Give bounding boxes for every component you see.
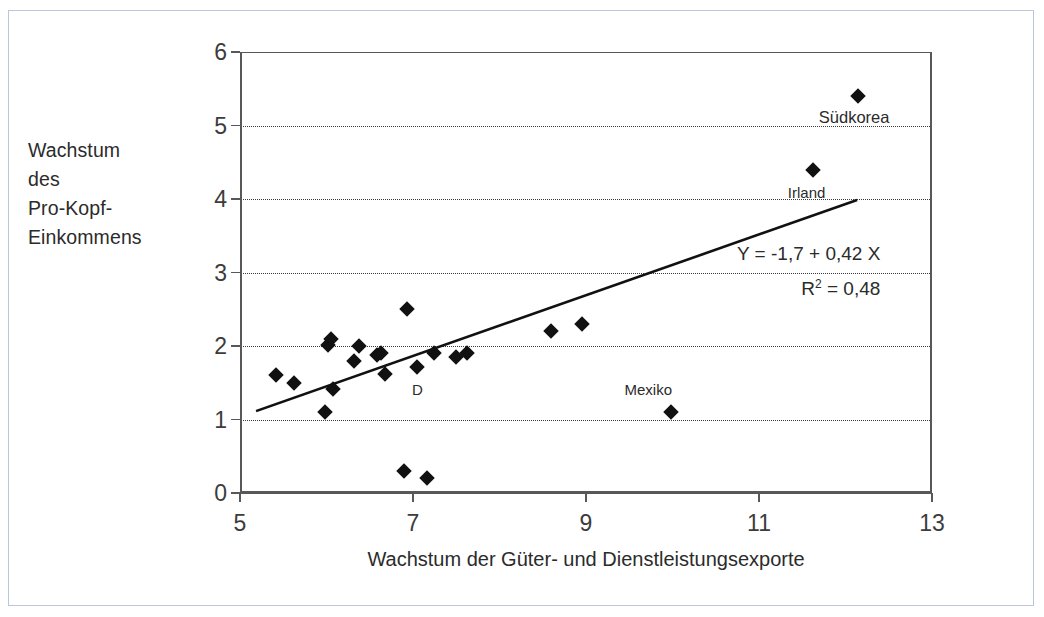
annotation-mexiko: Mexiko: [625, 380, 673, 397]
y-axis-title-line-4: Einkommens: [28, 223, 208, 252]
y-tick-label-0: 0: [214, 480, 227, 507]
y-tick-label-2: 2: [214, 333, 227, 360]
r-squared-value: = 0,48: [827, 278, 880, 299]
y-tick-label-5: 5: [214, 112, 227, 139]
y-tick-3: [231, 272, 240, 274]
x-tick-label-5: 5: [234, 510, 247, 537]
y-tick-label-6: 6: [214, 39, 227, 66]
y-tick-4: [231, 198, 240, 200]
r-squared-exponent: 2: [815, 277, 822, 291]
x-tick-5: [239, 493, 241, 502]
x-tick-label-7: 7: [407, 510, 420, 537]
y-axis-title-line-3: Pro-Kopf-: [28, 194, 208, 223]
x-tick-11: [758, 493, 760, 502]
x-tick-label-9: 9: [580, 510, 593, 537]
y-tick-label-4: 4: [214, 186, 227, 213]
r-squared-text: R2 = 0,48: [737, 269, 880, 304]
x-tick-7: [412, 493, 414, 502]
y-axis-title: Wachstum des Pro-Kopf- Einkommens: [28, 136, 208, 252]
y-axis-title-line-2: des: [28, 165, 208, 194]
annotation-südkorea: Südkorea: [819, 107, 890, 126]
y-tick-label-1: 1: [214, 406, 227, 433]
x-tick-9: [585, 493, 587, 502]
y-tick-5: [231, 125, 240, 127]
equation-text: Y = -1,7 + 0,42 X: [737, 238, 880, 269]
regression-equation: Y = -1,7 + 0,42 X R2 = 0,48: [737, 238, 880, 304]
y-tick-1: [231, 419, 240, 421]
y-tick-2: [231, 345, 240, 347]
annotation-d: D: [412, 380, 423, 397]
r-squared-symbol: R: [801, 278, 815, 299]
plot-area: 0123456 5791113 SüdkoreaIrlandMexikoD Y …: [240, 52, 932, 493]
x-axis-title: Wachstum der Güter- und Dienstleistungse…: [240, 548, 932, 571]
annotation-irland: Irland: [788, 183, 826, 200]
y-tick-6: [231, 51, 240, 53]
x-tick-label-11: 11: [747, 510, 771, 537]
chart-figure: Wachstum des Pro-Kopf- Einkommens 012345…: [0, 0, 1044, 617]
y-tick-label-3: 3: [214, 259, 227, 286]
x-tick-13: [931, 493, 933, 502]
y-axis-title-line-1: Wachstum: [28, 136, 208, 165]
x-tick-label-13: 13: [919, 510, 945, 537]
